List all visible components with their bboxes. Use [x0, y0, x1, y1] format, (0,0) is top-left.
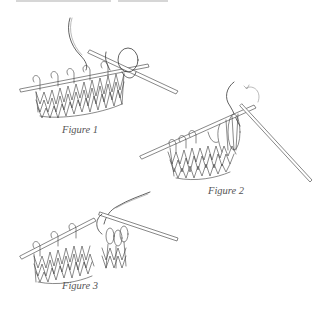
figure-1-caption: Figure 1 — [62, 124, 98, 135]
figure-3: Figure 3 — [10, 190, 180, 300]
knitting-illustration-2 — [140, 80, 328, 200]
figure-3-caption: Figure 3 — [62, 280, 98, 291]
figure-2: Figure 2 — [140, 80, 328, 200]
figure-2-caption: Figure 2 — [208, 185, 244, 196]
